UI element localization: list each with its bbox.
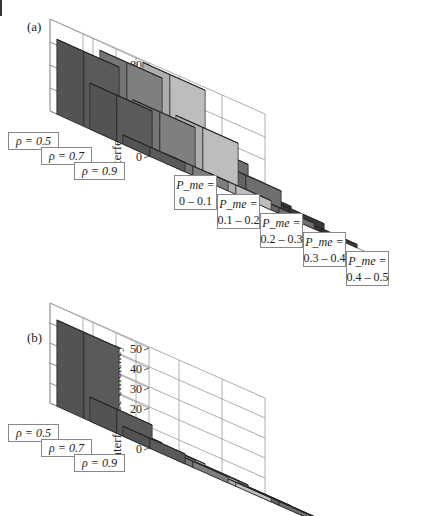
z-tick [144,448,149,450]
z-tick [144,388,149,390]
row-labels: ρ = 0.5ρ = 0.7ρ = 0.9 [9,425,125,472]
bar [123,426,185,464]
bar-front-face [236,482,271,502]
z-tick-label: 30 [130,382,142,396]
row-label: ρ = 0.5 [15,426,51,440]
z-tick [144,368,149,370]
z-tick [144,408,149,410]
chart-panel-b: (b) 01020304050Interference efficiencyρ … [0,0,423,516]
bar3d-chart-b: 01020304050Interference efficiencyρ = 0.… [0,0,423,516]
bars [57,320,357,516]
z-tick-label: 20 [130,402,142,416]
row-label: ρ = 0.7 [48,441,85,455]
row-label: ρ = 0.9 [81,456,117,470]
z-tick-label: 40 [130,362,142,376]
bar-side-face [57,320,84,418]
z-tick [144,348,149,350]
bar-front-face [193,461,228,483]
z-tick-label: 50 [130,342,142,356]
